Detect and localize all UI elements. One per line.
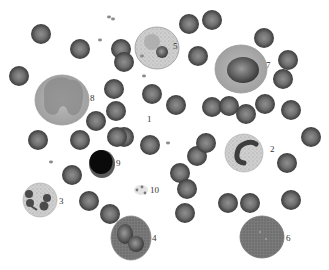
cell-8-monocyte: 8 <box>35 75 95 125</box>
erythrocyte <box>240 193 260 213</box>
erythrocyte <box>254 28 274 48</box>
erythrocyte <box>62 165 82 185</box>
cell-3-segmented-neutrophil: 3 <box>23 183 64 217</box>
erythrocyte <box>236 104 256 124</box>
erythrocyte <box>179 14 199 34</box>
erythrocyte <box>106 101 126 121</box>
erythrocyte <box>70 39 90 59</box>
erythrocyte <box>273 69 293 89</box>
erythrocyte <box>114 52 134 72</box>
erythrocyte <box>277 153 297 173</box>
erythrocyte <box>9 66 29 86</box>
erythrocyte <box>70 130 90 150</box>
cell-label-8: 8 <box>90 93 95 103</box>
platelet-speck <box>111 18 115 21</box>
platelet-speck <box>166 142 170 145</box>
erythrocyte <box>86 111 106 131</box>
platelet-speck <box>98 39 102 42</box>
cell-4-eosinophil: 4 <box>111 216 157 260</box>
cell-9-small-lymphocyte: 9 <box>89 150 121 178</box>
cell-7-lymphocyte: 7 <box>215 45 271 93</box>
cell-label-4: 4 <box>152 233 157 243</box>
cell-5-basophil: 5 <box>135 27 179 69</box>
cell-6-granular-cell: 6 <box>240 216 291 258</box>
blood-cell-diagram: 8 5 7 2 3 4 6 <box>0 0 329 270</box>
erythrocyte <box>278 50 298 70</box>
erythrocyte <box>188 46 208 66</box>
erythrocyte <box>107 127 127 147</box>
erythrocyte <box>202 10 222 30</box>
platelet-speck <box>142 75 146 78</box>
erythrocyte <box>140 135 160 155</box>
cell-label-6: 6 <box>286 233 291 243</box>
erythrocyte <box>281 100 301 120</box>
erythrocyte <box>104 79 124 99</box>
erythrocyte <box>79 191 99 211</box>
cell-10-platelets: 10 <box>134 185 160 195</box>
platelet-speck <box>140 55 144 58</box>
erythrocyte <box>28 130 48 150</box>
cell-label-3: 3 <box>59 196 64 206</box>
erythrocyte <box>218 193 238 213</box>
platelet-speck <box>49 161 53 164</box>
cell-label-5: 5 <box>173 41 178 51</box>
erythrocyte <box>166 95 186 115</box>
cell-label-9: 9 <box>116 158 121 168</box>
erythrocyte <box>196 133 216 153</box>
erythrocyte <box>301 127 321 147</box>
cell-label-2: 2 <box>270 144 275 154</box>
cell-2-band-neutrophil: 2 <box>225 134 275 172</box>
cell-label-10: 10 <box>150 185 160 195</box>
erythrocyte <box>255 94 275 114</box>
erythrocyte <box>219 96 239 116</box>
erythrocyte <box>175 203 195 223</box>
erythrocyte <box>100 204 120 224</box>
erythrocyte <box>31 24 51 44</box>
platelet-speck <box>107 16 111 19</box>
erythrocyte <box>142 84 162 104</box>
erythrocyte <box>177 179 197 199</box>
erythrocyte <box>281 190 301 210</box>
erythrocyte <box>202 97 222 117</box>
cell-label-1: 1 <box>147 114 152 124</box>
cell-label-7: 7 <box>266 60 271 70</box>
